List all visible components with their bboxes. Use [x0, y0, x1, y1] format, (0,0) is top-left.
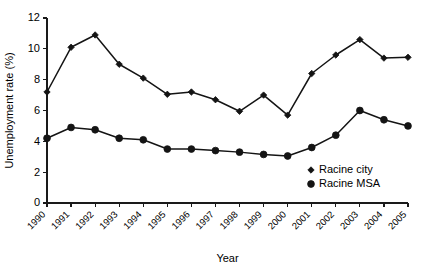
x-tick-label: 1991: [49, 209, 72, 232]
data-point-racine-city: [68, 44, 74, 50]
x-tick-label: 1993: [97, 209, 120, 232]
y-tick-label: 8: [34, 73, 40, 85]
x-tick-label: 1994: [121, 209, 144, 232]
data-point-racine-city: [405, 54, 411, 60]
data-point-racine-msa: [405, 123, 412, 130]
x-tick-label: 1990: [25, 209, 48, 232]
line-chart: 0246810121990199119921993199419951996199…: [0, 0, 421, 271]
x-tick-label: 2005: [386, 209, 409, 232]
legend-label: Racine MSA: [319, 177, 381, 189]
y-tick-label: 10: [28, 42, 40, 54]
y-tick-label: 0: [34, 196, 40, 208]
x-tick-label: 2000: [265, 209, 288, 232]
series-line-racine-city: [47, 35, 408, 115]
data-point-racine-msa: [44, 135, 51, 142]
data-point-racine-msa: [188, 146, 195, 153]
x-tick-label: 1997: [193, 209, 216, 232]
x-tick-label: 1999: [241, 209, 264, 232]
x-tick-label: 1992: [73, 209, 96, 232]
chart-figure: 0246810121990199119921993199419951996199…: [0, 0, 421, 271]
data-point-racine-msa: [92, 126, 99, 133]
y-tick-label: 12: [28, 11, 40, 23]
x-tick-label: 1995: [145, 209, 168, 232]
y-tick-label: 4: [34, 135, 40, 147]
data-point-racine-city: [212, 97, 218, 103]
y-tick-label: 6: [34, 104, 40, 116]
data-point-racine-city: [44, 89, 50, 95]
x-tick-label: 2004: [362, 209, 385, 232]
data-point-racine-msa: [140, 136, 147, 143]
data-point-racine-msa: [212, 147, 219, 154]
x-tick-label: 2003: [338, 209, 361, 232]
data-point-racine-msa: [284, 153, 291, 160]
x-tick-label: 2002: [313, 209, 336, 232]
data-point-racine-msa: [116, 135, 123, 142]
data-point-racine-msa: [332, 132, 339, 139]
data-point-racine-msa: [260, 151, 267, 158]
data-point-racine-msa: [356, 107, 363, 114]
legend-marker-circle: [308, 181, 315, 188]
series-line-racine-msa: [47, 111, 408, 156]
data-point-racine-msa: [68, 124, 75, 131]
data-point-racine-msa: [308, 144, 315, 151]
x-tick-label: 1998: [217, 209, 240, 232]
x-tick-label: 1996: [169, 209, 192, 232]
x-tick-label: 2001: [289, 209, 312, 232]
y-tick-label: 2: [34, 166, 40, 178]
data-point-racine-city: [188, 89, 194, 95]
x-axis-title: Year: [216, 252, 239, 264]
data-point-racine-msa: [164, 146, 171, 153]
legend-marker-diamond: [308, 167, 314, 173]
y-axis-title: Unemployment rate (%): [3, 52, 15, 168]
legend-label: Racine city: [319, 163, 373, 175]
data-point-racine-msa: [236, 149, 243, 156]
data-point-racine-msa: [381, 116, 388, 123]
